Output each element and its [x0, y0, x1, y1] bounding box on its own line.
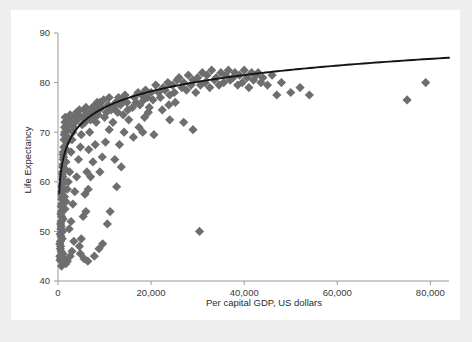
- y-tick-label: 90: [39, 27, 50, 38]
- y-tick-label: 40: [39, 275, 50, 286]
- y-tick-label: 70: [39, 127, 50, 138]
- y-tick-label: 50: [39, 226, 50, 237]
- scatter-chart: 405060708090 020,00040,00060,00080,000 P…: [11, 10, 460, 320]
- plot-background: [11, 10, 460, 320]
- x-axis-title: Per capital GDP, US dollars: [206, 297, 322, 308]
- x-tick-label: 0: [55, 287, 60, 298]
- x-tick-label: 60,000: [323, 287, 352, 298]
- y-tick-label: 80: [39, 77, 50, 88]
- figure-outer-frame: 405060708090 020,00040,00060,00080,000 P…: [0, 0, 472, 342]
- y-tick-label: 60: [39, 176, 50, 187]
- figure-plot-plate: 405060708090 020,00040,00060,00080,000 P…: [11, 10, 460, 320]
- y-axis-title: Life Expectancy: [22, 126, 33, 193]
- x-tick-label: 20,000: [137, 287, 166, 298]
- x-tick-label: 80,000: [416, 287, 445, 298]
